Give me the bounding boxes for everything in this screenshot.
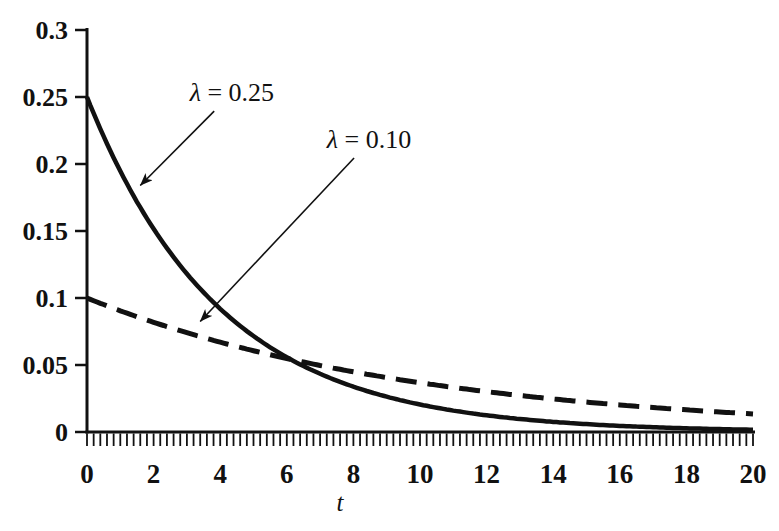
lambda-symbol: λ xyxy=(190,78,201,107)
y-tick-label: 0 xyxy=(55,418,68,447)
x-tick-label: 6 xyxy=(280,459,294,489)
y-tick-label: 0.2 xyxy=(36,150,69,179)
annotation-value: = 0.25 xyxy=(201,78,274,107)
chart-canvas: 00.050.10.150.20.250.302468101214161820 xyxy=(0,0,779,531)
y-tick-label: 0.25 xyxy=(23,83,69,112)
x-tick-label: 16 xyxy=(606,459,633,489)
y-tick-label: 0.05 xyxy=(23,351,69,380)
annotation-lambda-010: λ = 0.10 xyxy=(327,127,411,153)
x-tick-label: 8 xyxy=(347,459,361,489)
lambda-symbol: λ xyxy=(327,125,338,154)
x-tick-label: 14 xyxy=(540,459,567,489)
x-tick-label: 0 xyxy=(80,459,94,489)
annotation-arrow xyxy=(140,111,214,185)
curve-lambda-025 xyxy=(87,97,753,430)
x-tick-label: 20 xyxy=(740,459,767,489)
x-tick-label: 2 xyxy=(147,459,161,489)
x-tick-label: 10 xyxy=(407,459,434,489)
y-tick-label: 0.15 xyxy=(23,217,69,246)
x-axis-title: t xyxy=(326,489,354,517)
x-tick-label: 18 xyxy=(673,459,700,489)
annotation-lambda-025: λ = 0.25 xyxy=(190,80,274,106)
exponential-density-chart: 00.050.10.150.20.250.302468101214161820 … xyxy=(0,0,779,531)
y-tick-label: 0.1 xyxy=(36,284,69,313)
annotation-arrow xyxy=(200,158,354,321)
x-tick-label: 12 xyxy=(473,459,500,489)
annotation-value: = 0.10 xyxy=(338,125,411,154)
curve-lambda-010 xyxy=(87,298,753,414)
x-tick-label: 4 xyxy=(213,459,227,489)
y-tick-label: 0.3 xyxy=(36,16,69,45)
